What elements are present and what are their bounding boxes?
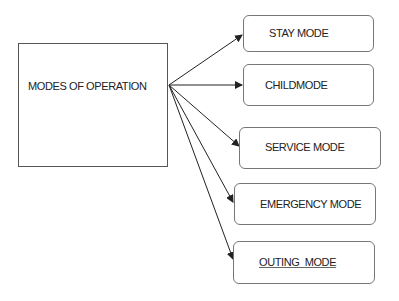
arrow-to-service-mode [169,85,239,146]
stay-mode-box: STAY MODE [243,15,374,52]
stay-mode-label: STAY MODE [269,27,328,39]
modes-of-operation-box: MODES OF OPERATION [18,43,168,167]
service-mode-label: SERVICE MODE [265,141,344,153]
emergency-mode-label: EMERGENCY MODE [260,198,361,210]
outing-mode-box: OUTING MODE [233,241,375,284]
outing-mode-label: OUTING MODE [259,256,336,268]
modes-of-operation-label: MODES OF OPERATION [28,80,147,92]
arrow-to-stay-mode [169,35,242,85]
child-mode-label: CHILDMODE [265,79,327,91]
arrow-to-emergency-mode [169,85,233,202]
arrow-to-outing-mode [169,85,233,259]
child-mode-box: CHILDMODE [243,64,374,106]
emergency-mode-box: EMERGENCY MODE [234,183,376,225]
service-mode-box: SERVICE MODE [239,127,381,169]
